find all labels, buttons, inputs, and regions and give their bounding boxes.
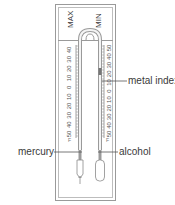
scale-number: 20 (106, 104, 112, 111)
metal-index-label: metal index (128, 76, 175, 86)
scale-number: 20 (66, 65, 72, 72)
thermometer-diagram: MAX MIN 4030201001020304050 504030201001… (0, 0, 175, 205)
scale-number: 40 (106, 121, 112, 128)
scale-number: 20 (106, 70, 112, 77)
alcohol-label: alcohol (119, 147, 151, 157)
mercury-bulb (77, 160, 83, 177)
u-tube-inner (80, 30, 100, 150)
mercury-label: mercury (18, 147, 54, 157)
scale-number: 10 (66, 93, 72, 100)
scale-number: 20 (66, 102, 72, 109)
scale-number: 0 (66, 85, 72, 89)
small-mark: F (68, 137, 71, 143)
alcohol-bulb (96, 160, 105, 181)
min-heading: MIN (94, 13, 103, 28)
scale-number: 40 (66, 121, 72, 128)
scale-number: 50 (106, 44, 112, 51)
scale-number: 30 (106, 61, 112, 68)
metal-index-marker (99, 68, 102, 75)
u-tube-outer (80, 30, 100, 150)
scale-number: 40 (106, 53, 112, 60)
scale-number: 30 (66, 55, 72, 62)
bulb-top (86, 34, 94, 40)
scale-number: 10 (106, 96, 112, 103)
small-mark: F (106, 137, 109, 143)
scale-number: 40 (66, 46, 72, 53)
scale-number: 30 (106, 113, 112, 120)
scale-number: 10 (106, 78, 112, 85)
max-heading: MAX (66, 10, 75, 28)
max-scale: 4030201001020304050 (66, 46, 72, 137)
min-scale: 504030201001020304050 (106, 44, 112, 137)
scale-number: 10 (66, 74, 72, 81)
scale-number: 0 (106, 89, 112, 93)
scale-number: 30 (66, 111, 72, 118)
